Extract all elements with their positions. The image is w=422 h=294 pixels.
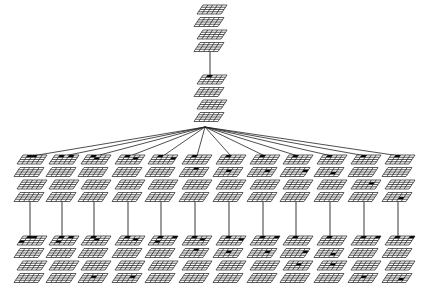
lattice-tree-diagram	[0, 0, 422, 294]
level1-stack	[194, 75, 227, 122]
child-stack-c10	[314, 155, 347, 202]
grandchild-stack-g11	[348, 236, 381, 283]
grandchild-stack-g7	[213, 236, 246, 283]
child-stack-c11	[348, 155, 381, 202]
grandchild-stack-g9	[280, 236, 313, 283]
grandchild-stack-g8	[247, 236, 280, 283]
child-stack-c6	[179, 155, 212, 202]
grandchild-stack-g6	[179, 236, 212, 283]
grandchild-stack-g10	[314, 236, 347, 283]
grandchild-stack-g2	[46, 236, 79, 283]
grandchild-stack-g4	[112, 236, 145, 283]
child-stack-c2	[46, 155, 79, 202]
child-stack-c4	[112, 155, 145, 202]
grandchild-stack-g5	[145, 236, 178, 283]
child-stack-c5	[145, 155, 178, 202]
child-stack-c1	[14, 155, 47, 202]
child-stack-c9	[280, 155, 313, 202]
child-stack-c3	[78, 155, 111, 202]
root-stack	[194, 5, 227, 52]
child-stack-c7	[213, 155, 246, 202]
child-stack-c12	[382, 155, 415, 202]
grandchild-stack-g3	[78, 236, 111, 283]
grandchild-stack-g12	[382, 236, 415, 283]
child-stack-c8	[247, 155, 280, 202]
grandchild-stack-g1	[14, 236, 47, 283]
